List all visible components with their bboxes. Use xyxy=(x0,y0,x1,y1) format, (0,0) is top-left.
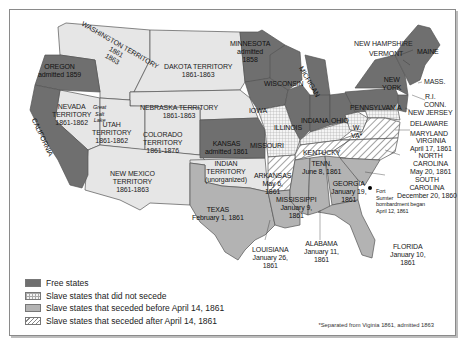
swatch-gray-icon xyxy=(25,304,41,312)
label-ohio: OHIO xyxy=(331,117,349,125)
label-colorado: COLORADO TERRITORY 1861-1876 xyxy=(143,131,182,155)
legend-row-free: Free states xyxy=(25,277,224,290)
fort-sumter-marker xyxy=(368,186,372,190)
label-virginia: VIRGINIA April 17, 1861 xyxy=(410,137,452,153)
swatch-grid-icon xyxy=(25,292,41,300)
legend-label: Slave states that seceded after April 14… xyxy=(46,316,217,326)
label-missouri: MISSOURI xyxy=(250,142,284,150)
label-florida: FLORIDA January 10, 1861 xyxy=(390,243,425,267)
label-nevada: NEVADA TERRITORY 1861-1862 xyxy=(52,103,91,127)
label-pennsylvania: PENNSYLVANIA xyxy=(350,104,401,112)
label-mass: MASS. xyxy=(424,78,445,86)
label-conn: CONN. xyxy=(424,101,446,109)
legend: Free states Slave states that did not se… xyxy=(25,277,224,327)
label-new-hampshire: NEW HAMPSHIRE xyxy=(354,40,413,48)
legend-row-seceded-before: Slave states that seceded before April 1… xyxy=(25,302,224,315)
label-new-jersey: NEW JERSEY xyxy=(408,109,453,117)
label-north-carolina: NORTH CAROLINA May 20, 1861 xyxy=(410,152,451,176)
legend-label: Slave states that seceded before April 1… xyxy=(46,303,224,313)
label-alabama: ALABAMA January 11, 1861 xyxy=(304,240,339,264)
label-minnesota: MINNESOTA admitted 1858 xyxy=(230,40,270,64)
label-nebraska: NEBRASKA TERRITORY 1861-1863 xyxy=(140,104,218,120)
label-kansas: KANSAS admitted 1861 xyxy=(205,140,248,156)
label-georgia: GEORGIA January 19, 1861 xyxy=(331,180,366,204)
legend-row-seceded-after: Slave states that seceded after April 14… xyxy=(25,315,224,328)
label-illinois: ILLINOIS xyxy=(274,124,302,132)
label-indiana: INDIANA xyxy=(301,117,329,125)
label-tennessee: TENN. June 8, 1861 xyxy=(302,160,341,176)
label-maine: MAINE xyxy=(417,48,439,56)
label-texas: TEXAS February 1, 1861 xyxy=(192,206,244,222)
label-vermont: VERMONT xyxy=(369,50,403,58)
label-kentucky: KENTUCKY xyxy=(303,149,340,157)
label-new-york: NEW YORK xyxy=(382,76,401,92)
label-ri: R.I. xyxy=(425,93,436,101)
label-arkansas: ARKANSAS May 6, 1861 xyxy=(254,172,291,196)
label-oregon: OREGON admitted 1859 xyxy=(38,63,81,79)
label-indian: INDIAN TERRITORY (unorganized) xyxy=(205,160,247,184)
swatch-hatch-icon xyxy=(25,317,41,325)
label-dakota: DAKOTA TERRITORY 1861-1863 xyxy=(164,63,232,79)
label-mississippi: MISSISSIPPI January 9, 1861 xyxy=(276,196,317,220)
legend-row-no-secede: Slave states that did not secede xyxy=(25,290,224,303)
label-fort-sumter: Fort Sumter bombardment began April 12, … xyxy=(376,188,425,214)
label-west-virginia: W. VA* xyxy=(351,124,362,140)
label-delaware: DELAWARE xyxy=(410,120,448,128)
label-utah: UTAH TERRITORY 1861-1862 xyxy=(92,121,131,145)
label-new-mexico: NEW MEXICO TERRITORY 1861-1863 xyxy=(110,170,155,194)
label-wisconsin: WISCONSIN xyxy=(264,80,304,88)
indiana xyxy=(310,95,330,132)
footnote: *Separated from Viginia 1861, admitted 1… xyxy=(318,322,434,328)
legend-label: Slave states that did not secede xyxy=(46,291,167,301)
swatch-free-icon xyxy=(25,279,41,287)
legend-label: Free states xyxy=(46,278,89,288)
label-iowa: IOWA xyxy=(249,107,267,115)
label-louisiana: LOUISIANA January 26, 1861 xyxy=(252,246,288,270)
